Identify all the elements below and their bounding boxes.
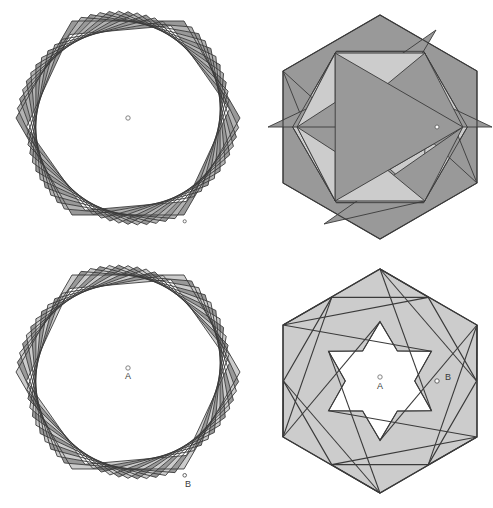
panel-top-right-hexagram (247, 0, 493, 254)
vertex-marker-b (183, 220, 186, 223)
svg-top-right (247, 0, 493, 254)
svg-top-left (0, 0, 247, 254)
panel-bottom-left-nested-hexagons: A B (0, 254, 247, 508)
hexagram-shapes (268, 15, 492, 239)
vertex-marker-b (435, 379, 439, 383)
panel-top-left-nested-hexagons (0, 0, 247, 254)
center-marker (126, 116, 130, 120)
center-marker-a (378, 375, 382, 379)
label-b: B (185, 479, 191, 489)
vertex-marker-b (183, 474, 187, 478)
svg-bottom-right: A B (247, 254, 493, 508)
panel-bottom-right-hexagram-star: A B (247, 254, 493, 508)
center-marker-a (126, 366, 130, 370)
label-a: A (377, 381, 383, 391)
label-a: A (125, 371, 131, 381)
label-b: B (445, 372, 451, 382)
vertex-marker-b (435, 125, 439, 129)
figure-grid: A B A B (0, 0, 493, 508)
svg-bottom-left: A B (0, 254, 247, 508)
